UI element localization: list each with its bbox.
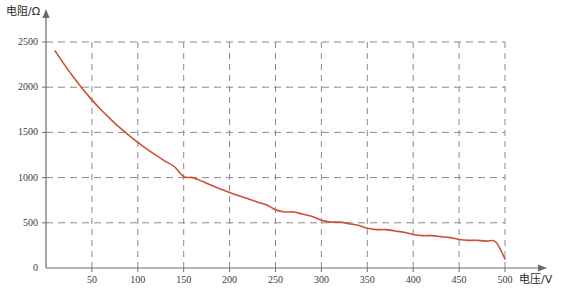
y-tick-label: 500 xyxy=(0,217,38,228)
x-tick-label: 350 xyxy=(349,274,385,285)
y-tick-label: 1000 xyxy=(0,172,38,183)
vertical-gridlines xyxy=(92,42,505,268)
resistance-voltage-chart: 电阻/Ω 电压/V 25002000150010005000 501001502… xyxy=(0,0,562,297)
y-tick-label: 1500 xyxy=(0,126,38,137)
y-tick-label: 2500 xyxy=(0,36,38,47)
y-tick-label: 0 xyxy=(0,262,38,273)
data-series-curve xyxy=(55,51,505,259)
axis-tick-marks xyxy=(42,42,505,272)
x-tick-label: 100 xyxy=(120,274,156,285)
y-axis-title: 电阻/Ω xyxy=(6,6,40,18)
x-axis-title: 电压/V xyxy=(519,274,552,286)
axis-lines xyxy=(42,9,547,272)
x-tick-label: 450 xyxy=(441,274,477,285)
y-tick-label: 2000 xyxy=(0,81,38,92)
chart-canvas xyxy=(0,0,562,297)
x-tick-label: 50 xyxy=(74,274,110,285)
x-tick-label: 150 xyxy=(166,274,202,285)
x-tick-label: 500 xyxy=(487,274,523,285)
x-tick-label: 400 xyxy=(395,274,431,285)
x-tick-label: 250 xyxy=(258,274,294,285)
x-tick-label: 200 xyxy=(212,274,248,285)
x-tick-label: 300 xyxy=(303,274,339,285)
